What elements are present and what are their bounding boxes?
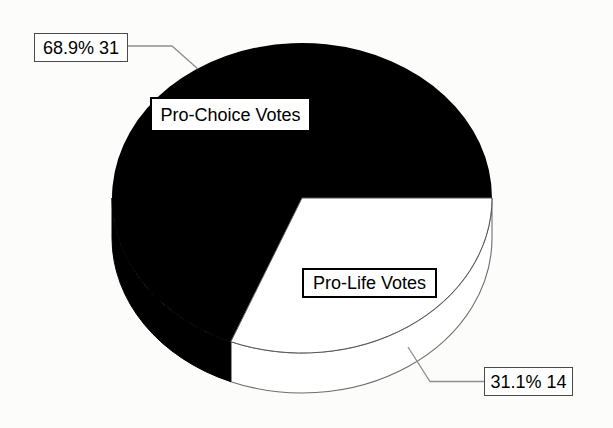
pro-choice-slice-label: Pro-Choice Votes [150, 97, 311, 132]
pie-chart-canvas [0, 0, 613, 428]
pro-life-callout: 31.1% 14 [484, 367, 573, 396]
pro-life-slice-label: Pro-Life Votes [302, 268, 437, 298]
pie-chart-figure: 68.9% 31 Pro-Choice Votes Pro-Life Votes… [0, 0, 613, 428]
pro-choice-leader-line [128, 46, 198, 69]
pro-choice-callout: 68.9% 31 [34, 33, 128, 62]
